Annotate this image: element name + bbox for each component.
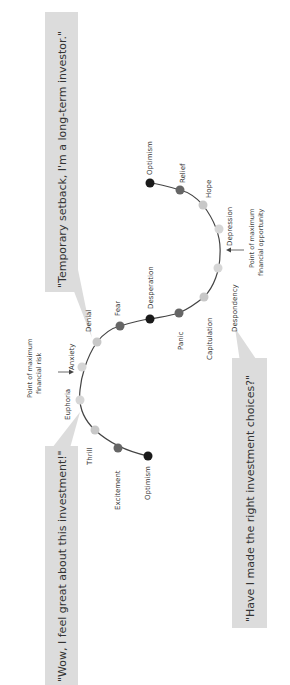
- label-despondency: Despondency: [231, 284, 239, 332]
- dot-denial: [93, 338, 102, 347]
- quote-top: "Temporary setback, I'm a long-term inve…: [56, 31, 69, 288]
- quote-left: "Wow, I feel great about this investment…: [56, 450, 69, 682]
- callout-left: "Wow, I feel great about this investment…: [45, 412, 80, 685]
- label-desperation: Desperation: [147, 266, 155, 309]
- label-denial: Denial: [85, 310, 93, 332]
- opp-line1: Point of maximum: [248, 209, 256, 268]
- dot-thrill: [91, 426, 100, 435]
- opp-line2: financial opportunity: [257, 208, 265, 276]
- risk-line1: Point of maximum: [26, 339, 34, 398]
- investor-emotion-cycle-diagram: "Temporary setback, I'm a long-term inve…: [0, 0, 290, 685]
- dot-depression: [215, 225, 224, 234]
- dot-optimism-start: [144, 452, 153, 461]
- arrow-left-icon: [226, 248, 231, 253]
- label-excitement: Excitement: [114, 470, 122, 510]
- label-optimism-end: Optimism: [146, 141, 154, 175]
- dot-euphoria: [76, 396, 85, 405]
- risk-line2: financial risk: [35, 353, 43, 394]
- label-hope: Hope: [205, 180, 213, 198]
- label-fear: Fear: [114, 301, 122, 316]
- dot-fear: [116, 322, 125, 331]
- label-relief: Relief: [179, 163, 187, 183]
- label-depression: Depression: [226, 207, 234, 246]
- dot-panic: [175, 309, 184, 318]
- label-optimism-start: Optimism: [144, 466, 152, 500]
- callout-right: "Have I made the right investment choice…: [232, 328, 267, 628]
- dot-despondency: [214, 264, 223, 273]
- callout-top: "Temporary setback, I'm a long-term inve…: [45, 12, 92, 338]
- dot-capitulation: [200, 293, 209, 302]
- label-thrill: Thrill: [86, 448, 94, 466]
- label-capitulation: Capitulation: [206, 318, 214, 360]
- label-anxiety: Anxiety: [68, 343, 76, 370]
- stage-dots: [76, 179, 224, 461]
- label-euphoria: Euphoria: [64, 389, 72, 420]
- dot-excitement: [114, 444, 123, 453]
- label-panic: Panic: [177, 331, 185, 350]
- dot-anxiety: [78, 363, 87, 372]
- dot-optimism-end: [146, 179, 155, 188]
- dot-desperation: [146, 315, 155, 324]
- quote-right: "Have I made the right investment choice…: [244, 375, 257, 622]
- dot-hope: [199, 201, 208, 210]
- dot-relief: [176, 186, 185, 195]
